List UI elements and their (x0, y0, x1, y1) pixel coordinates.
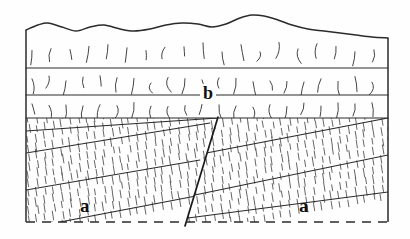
unit-label-b: b (200, 84, 216, 102)
unit-label-a-right: a (299, 196, 309, 215)
unit-label-a-left: a (80, 196, 90, 215)
cross-section-drawing (0, 0, 410, 239)
cross-section-figure: a a b (0, 0, 410, 239)
